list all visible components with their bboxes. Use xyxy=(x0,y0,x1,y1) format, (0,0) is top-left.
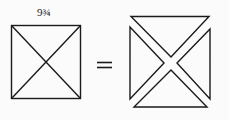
left-triangle xyxy=(130,27,164,99)
separated-triangles xyxy=(130,17,210,108)
equals-sign xyxy=(97,63,112,68)
top-triangle xyxy=(131,17,209,58)
diagram-canvas xyxy=(0,0,229,120)
square-with-diagonals xyxy=(12,26,81,99)
right-triangle xyxy=(177,29,210,99)
bottom-triangle xyxy=(134,70,207,107)
